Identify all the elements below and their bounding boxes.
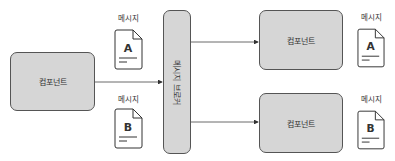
component-left-label: 컴포넌트	[39, 76, 67, 87]
message-b-right: B	[357, 109, 385, 151]
message-a-left-caption: 메시지	[113, 12, 143, 23]
component-right-top-label: 컴포넌트	[287, 35, 315, 46]
message-a-right-caption: 메시지	[356, 11, 386, 22]
message-a-right: A	[357, 27, 385, 69]
document-icon: A	[357, 27, 385, 69]
component-right-bottom: 컴포넌트	[259, 93, 343, 153]
message-a-left: A	[114, 29, 143, 70]
component-right-top: 컴포넌트	[259, 10, 343, 70]
svg-text:B: B	[366, 122, 374, 135]
component-left: 컴포넌트	[10, 52, 95, 111]
message-b-left-caption: 메시지	[113, 93, 143, 104]
message-broker: 메시지 브로커	[163, 10, 191, 154]
document-icon: B	[114, 108, 143, 149]
document-icon: B	[357, 109, 385, 151]
svg-text:A: A	[366, 40, 375, 53]
svg-text:B: B	[124, 121, 132, 134]
message-b-left: B	[114, 108, 143, 149]
document-icon: A	[114, 29, 143, 70]
svg-text:A: A	[124, 42, 133, 55]
message-b-right-caption: 메시지	[356, 93, 386, 104]
component-right-bottom-label: 컴포넌트	[287, 118, 315, 129]
message-broker-label: 메시지 브로커	[172, 60, 183, 105]
